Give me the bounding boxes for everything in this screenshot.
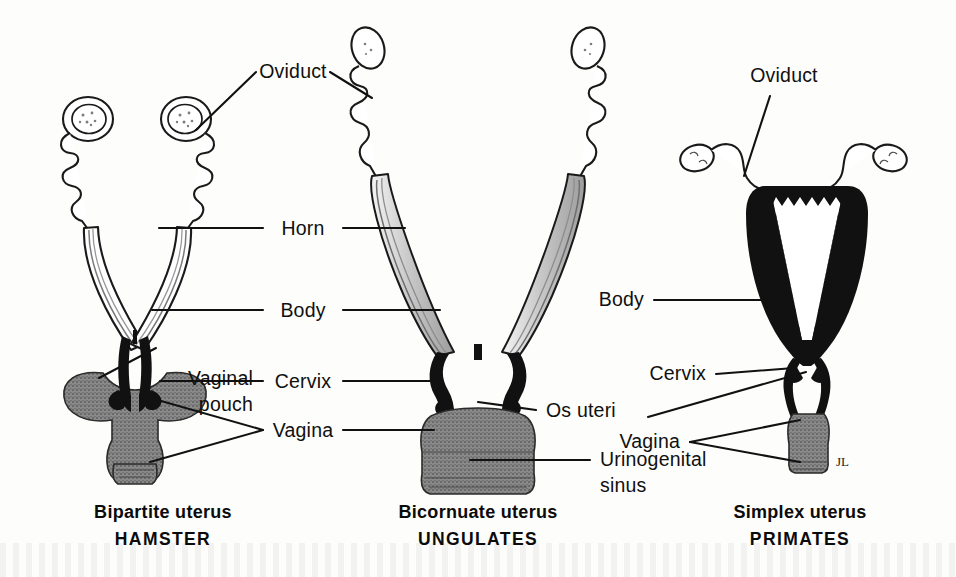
label-vagina-center: Vagina <box>273 419 333 441</box>
label-os-uteri: Os uteri <box>546 399 616 421</box>
ovary-right-hamster <box>161 97 211 141</box>
leader-vagina-right-a <box>690 420 800 442</box>
artist-signature: JL <box>836 454 849 469</box>
figure-plate: Vaginal pouch Bipartite uterus HAMSTER <box>0 0 956 577</box>
label-cervix-center: Cervix <box>275 370 332 392</box>
caption-primates-line1: Simplex uterus <box>733 502 866 522</box>
leader-oviduct-right-panel <box>744 96 770 176</box>
ovary-right-primate <box>870 141 910 175</box>
horn-right-hamster <box>131 227 191 350</box>
label-oviduct-right: Oviduct <box>750 64 818 86</box>
leader-vagina-left-b <box>150 430 263 462</box>
body-primate <box>746 186 868 366</box>
label-cervix-right: Cervix <box>650 362 707 384</box>
page-bleed-through <box>0 543 956 577</box>
label-vaginal-pouch-line1: Vaginal <box>188 367 253 389</box>
ovary-left-primate <box>677 141 717 175</box>
anatomy-illustration: Vaginal pouch Bipartite uterus HAMSTER <box>0 0 956 577</box>
label-horn: Horn <box>281 217 324 239</box>
vagina-hamster <box>113 464 157 484</box>
oviduct-left-ungulate <box>350 66 378 180</box>
leader-vagina-right-b <box>690 442 800 462</box>
label-body-center: Body <box>280 299 325 321</box>
ovary-right-ungulate <box>566 23 609 73</box>
oviduct-left-hamster <box>61 133 90 232</box>
vaginal-pouch-hamster <box>64 373 206 479</box>
oviduct-right-hamster <box>185 133 214 232</box>
horn-left-ungulate <box>371 174 454 356</box>
panel-ungulates: Os uteri Urinogenital sinus Bicornuate u… <box>343 23 706 549</box>
ovary-left-ungulate <box>346 23 389 73</box>
oviduct-left-primate <box>711 144 768 190</box>
vagina-primate <box>788 414 829 473</box>
label-vagina-right: Vagina <box>620 430 680 452</box>
leader-cervix-right-panel <box>716 368 794 374</box>
label-vaginal-pouch-line2: pouch <box>199 393 253 415</box>
oviduct-right-ungulate <box>578 66 606 180</box>
label-body-right: Body <box>599 288 644 310</box>
horn-right-ungulate <box>502 174 585 356</box>
panel-hamster: Vaginal pouch Bipartite uterus HAMSTER <box>61 97 263 549</box>
caption-hamster-line1: Bipartite uterus <box>94 502 232 522</box>
leader-oviduct-center-left <box>196 72 256 130</box>
label-oviduct-center: Oviduct <box>259 60 327 82</box>
caption-ungulates-line1: Bicornuate uterus <box>398 502 557 522</box>
label-urinogenital-line2: sinus <box>600 474 647 496</box>
oviduct-right-primate <box>819 144 876 190</box>
ovary-left-hamster <box>63 97 113 141</box>
urinogenital-sinus-ungulate <box>421 408 535 494</box>
